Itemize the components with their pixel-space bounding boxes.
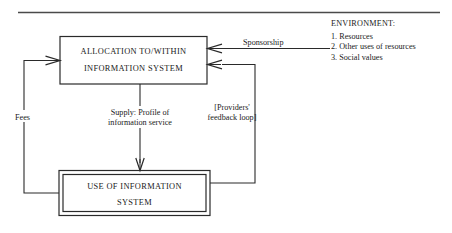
system-flow-diagram: ALLOCATION TO/WITHIN INFORMATION SYSTEM … — [0, 0, 452, 233]
environment-item-1: 1. Resources — [331, 32, 373, 41]
fees-path — [24, 61, 59, 194]
fees-label: Fees — [15, 113, 30, 122]
supply-label-line2: information service — [108, 118, 172, 127]
environment-heading: ENVIRONMENT: — [331, 19, 395, 28]
sponsorship-label: Sponsorship — [243, 38, 284, 47]
feedback-loop-label-line1: [Providers' — [214, 103, 250, 112]
use-box-label-line2: SYSTEM — [117, 198, 152, 207]
diagram-figure: ALLOCATION TO/WITHIN INFORMATION SYSTEM … — [0, 0, 452, 233]
supply-label-line1: Supply: Profile of — [111, 108, 170, 117]
allocation-box-label-line2: INFORMATION SYSTEM — [84, 64, 183, 73]
allocation-box — [60, 37, 207, 85]
feedback-loop-label-line2: feedback loop] — [208, 113, 257, 122]
feedback-loop-path — [210, 65, 255, 184]
environment-item-3: 3. Social values — [331, 53, 383, 62]
allocation-box-label-line1: ALLOCATION TO/WITHIN — [80, 47, 186, 56]
use-box-label-line1: USE OF INFORMATION — [87, 182, 182, 191]
environment-item-2: 2. Other uses of resources — [331, 42, 416, 51]
use-box-outer-border — [59, 171, 210, 216]
